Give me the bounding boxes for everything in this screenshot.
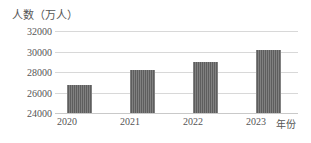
x-tick-label-2022: 2022 xyxy=(171,116,215,127)
x-axis-title: 年份 xyxy=(276,116,296,131)
y-axis-title: 人数（万人） xyxy=(12,6,78,22)
bar-chart-figure: 人数（万人） 32000 30000 28000 26000 24000 202… xyxy=(0,0,311,143)
x-tick-label-2020: 2020 xyxy=(45,116,89,127)
bar-2023 xyxy=(256,50,281,113)
y-tick-label-30000: 30000 xyxy=(6,46,52,57)
bar-2022 xyxy=(193,62,218,113)
x-tick-label-2021: 2021 xyxy=(108,116,152,127)
x-tick-label-2023: 2023 xyxy=(234,116,278,127)
plot-area xyxy=(55,31,298,113)
bar-2021 xyxy=(130,70,155,113)
y-tick-label-28000: 28000 xyxy=(6,67,52,78)
y-tick-label-26000: 26000 xyxy=(6,87,52,98)
y-tick-label-32000: 32000 xyxy=(6,26,52,37)
gridline-axis-baseline xyxy=(55,113,298,114)
figure-caption xyxy=(0,137,311,143)
bar-2020 xyxy=(67,85,92,113)
gridline-32000 xyxy=(55,31,298,32)
